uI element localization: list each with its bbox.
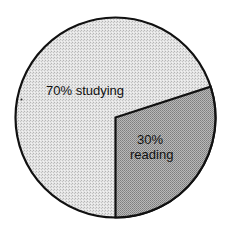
label-studying: 70% studying [46, 83, 124, 98]
stray-dot [21, 99, 23, 101]
label-reading-name: reading [130, 147, 173, 162]
pie-chart: 70% studying 30% reading [0, 0, 227, 230]
label-reading-percent: 30% [137, 132, 163, 147]
